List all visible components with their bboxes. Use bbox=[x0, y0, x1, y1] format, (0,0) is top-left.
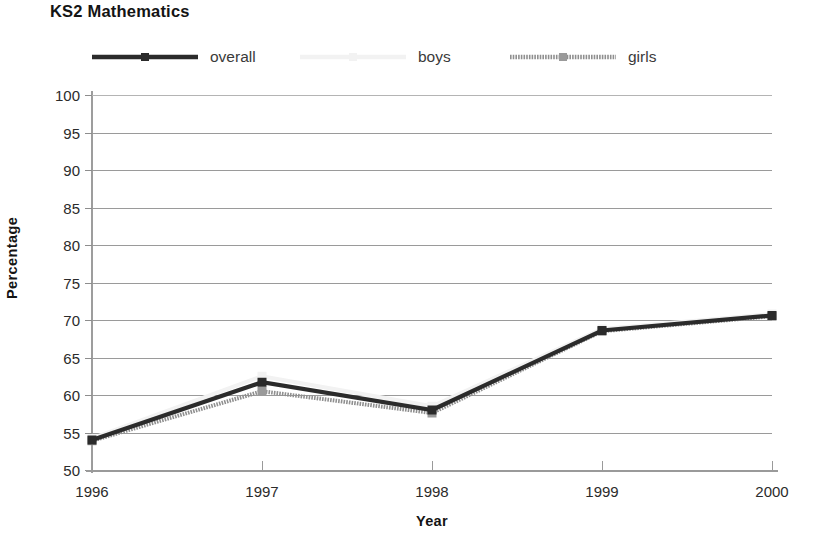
y-tick-label-50: 50 bbox=[63, 462, 80, 479]
y-tick-80 bbox=[85, 245, 92, 246]
y-tick-label-100: 100 bbox=[55, 87, 80, 104]
y-tick-label-80: 80 bbox=[63, 237, 80, 254]
x-tick-1996 bbox=[92, 461, 93, 470]
y-tick-label-70: 70 bbox=[63, 312, 80, 329]
legend-swatch-overall bbox=[92, 46, 198, 68]
y-tick-label-90: 90 bbox=[63, 162, 80, 179]
series-line-girls bbox=[92, 316, 772, 441]
x-tick-1999 bbox=[602, 461, 603, 470]
plot-area: 50556065707580859095100 bbox=[92, 95, 772, 470]
series-layer bbox=[92, 95, 772, 470]
y-tick-label-75: 75 bbox=[63, 274, 80, 291]
data-point-overall-1998 bbox=[428, 406, 437, 415]
chart-title: KS2 Mathematics bbox=[50, 2, 190, 21]
legend-swatch-boys bbox=[300, 46, 406, 68]
y-tick-label-95: 95 bbox=[63, 124, 80, 141]
x-tick-label-1999: 1999 bbox=[585, 483, 618, 500]
x-axis-spine bbox=[86, 470, 778, 472]
x-tick-label-1996: 1996 bbox=[75, 483, 108, 500]
x-tick-2000 bbox=[772, 461, 773, 470]
y-tick-90 bbox=[85, 170, 92, 171]
y-tick-65 bbox=[85, 358, 92, 359]
legend-label-overall: overall bbox=[210, 48, 256, 66]
legend-item-boys[interactable]: boys bbox=[300, 42, 451, 72]
data-point-overall-1996 bbox=[88, 436, 97, 445]
y-tick-label-60: 60 bbox=[63, 387, 80, 404]
y-tick-95 bbox=[85, 133, 92, 134]
x-tick-1997 bbox=[262, 461, 263, 470]
chart-figure: KS2 Mathematics overall bbox=[0, 0, 829, 533]
data-point-overall-2000 bbox=[768, 311, 777, 320]
legend-label-boys: boys bbox=[418, 48, 451, 66]
series-line-overall bbox=[92, 316, 772, 441]
legend-swatch-girls bbox=[510, 46, 616, 68]
x-axis-title: Year bbox=[92, 513, 772, 529]
data-point-overall-1997 bbox=[258, 378, 267, 387]
y-tick-70 bbox=[85, 320, 92, 321]
legend-label-girls: girls bbox=[628, 48, 656, 66]
data-point-girls-1997 bbox=[258, 387, 267, 396]
x-tick-label-2000: 2000 bbox=[755, 483, 788, 500]
x-tick-label-1998: 1998 bbox=[415, 483, 448, 500]
legend-item-girls[interactable]: girls bbox=[510, 42, 656, 72]
y-tick-75 bbox=[85, 283, 92, 284]
y-tick-60 bbox=[85, 395, 92, 396]
y-tick-85 bbox=[85, 208, 92, 209]
chart-legend: overall boys girls bbox=[92, 42, 772, 72]
data-point-overall-1999 bbox=[598, 326, 607, 335]
y-tick-label-65: 65 bbox=[63, 349, 80, 366]
y-tick-100 bbox=[85, 95, 92, 96]
legend-item-overall[interactable]: overall bbox=[92, 42, 256, 72]
y-tick-55 bbox=[85, 433, 92, 434]
series-line-boys bbox=[92, 314, 772, 439]
x-tick-label-1997: 1997 bbox=[245, 483, 278, 500]
y-tick-label-55: 55 bbox=[63, 424, 80, 441]
y-axis-title: Percentage bbox=[4, 217, 20, 299]
x-axis: 19961997199819992000 Year bbox=[92, 470, 772, 530]
x-tick-1998 bbox=[432, 461, 433, 470]
y-tick-label-85: 85 bbox=[63, 199, 80, 216]
